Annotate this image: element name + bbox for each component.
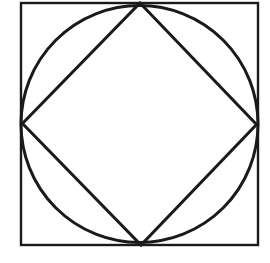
figure-canvas — [0, 0, 270, 263]
geometric-figure — [0, 0, 270, 263]
inscribed-circle — [21, 6, 258, 243]
